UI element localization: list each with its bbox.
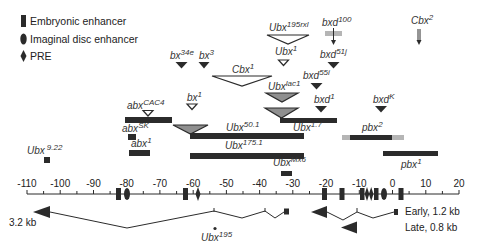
gray-triangle-icon [173,125,208,134]
svg-text:bxdK: bxdK [373,92,395,105]
svg-text:bxd51j: bxd51j [320,47,347,60]
svg-text:abxCAC4: abxCAC4 [127,98,165,111]
filled-triangle-icon [315,106,327,113]
allele-ubx195rxl: Ubx195rxl [267,20,309,44]
allele-label: Ubx [27,145,46,156]
svg-text:Cbx2: Cbx2 [411,13,434,26]
tick-label: -10 [352,178,367,189]
allele-abxCAC4: abxCAC4 [127,98,165,116]
allele-superscript: SK [138,121,149,130]
allele-bxd51j: bxd51j [320,47,347,69]
deletion-bar [129,150,150,156]
allele-label: pbx [361,122,379,133]
svg-text:Ubx1: Ubx1 [275,44,297,57]
tick-label: -80 [119,178,134,189]
allele-label: bxd [303,70,320,81]
svg-text:Ubx195: Ubx195 [201,230,233,243]
axis-ticks [27,190,459,194]
kb-axis: -110 -100 -90 -80 -70 -60 -50 -40 -30 -2… [17,178,465,201]
exon-box [394,209,398,215]
tick-label: -110 [17,178,37,189]
allele-label: Cbx [411,15,430,26]
embryonic-enhancer-icon [360,188,365,200]
svg-text:Ubx195rxl: Ubx195rxl [269,20,309,33]
allele-label: Ubx [268,81,287,92]
allele-bxd1: bxd1 [314,92,335,113]
allele-bx34e: bx34e [170,48,194,69]
open-triangle-icon [279,60,289,66]
svg-text:UbxMx6: UbxMx6 [273,155,306,168]
pre-icon [365,187,370,201]
transcript-3-2kb: 3.2 kb [9,206,289,228]
embryonic-enhancer-icon [322,188,327,200]
filled-triangle-icon [375,106,387,113]
allele-superscript: 195rxl [287,20,309,29]
svg-text:bxd55i: bxd55i [303,68,330,81]
allele-ubx195: Ubx195 [201,227,233,243]
tick-label: -70 [153,178,168,189]
svg-text:Cbx1: Cbx1 [232,62,254,75]
allele-label: abx [122,123,139,134]
svg-text:bxd1: bxd1 [314,92,335,105]
tick-label: -100 [50,178,70,189]
legend-label-pre: PRE [30,50,52,62]
allele-superscript: 34e [181,48,195,57]
allele-superscript: CAC4 [143,98,165,107]
imaginal-disc-enhancer-icon [381,188,387,200]
svg-text:bxd100: bxd100 [322,15,352,28]
allele-label: bxd [314,94,331,105]
allele-pbx2: pbx2 [342,120,404,140]
svg-text:Ubx50.1: Ubx50.1 [226,120,259,133]
allele-bxd55i: bxd55i [303,68,330,90]
allele-superscript: 51j [336,47,347,56]
embryonic-enhancer-icon [340,188,345,200]
allele-bxdK: bxdK [373,92,395,113]
open-triangle-icon [267,35,309,44]
embryonic-enhancer-icon [183,188,188,200]
allele-superscript: 1 [198,90,202,99]
imaginal-disc-enhancer-legend-icon [20,34,26,45]
svg-text:abx1: abx1 [131,136,152,149]
allele-label: Ubx [275,46,294,57]
gray-triangle-icon [266,93,298,102]
allele-label: Ubx [226,122,245,133]
allele-superscript: 50.1 [244,120,260,129]
arrowhead-left-icon [341,222,357,234]
transcript-label-long: 3.2 kb [9,217,37,228]
allele-label: bxd [373,94,390,105]
svg-text:abxSK: abxSK [122,121,149,134]
filled-triangle-icon [311,83,323,90]
open-triangle-icon [187,104,197,110]
tick-label: 0 [390,178,396,189]
tick-label: -30 [286,178,301,189]
transcript-label-early: Early, 1.2 kb [405,206,460,217]
allele-superscript: 1 [417,157,421,166]
allele-label: abx [131,138,148,149]
allele-label: Cbx [232,64,251,75]
svg-text:bx3: bx3 [199,48,215,61]
tick-label: -90 [86,178,101,189]
intron-line [50,211,284,228]
allele-abx1: abx1 [129,136,152,156]
svg-text:Ubx175.1: Ubx175.1 [225,138,263,151]
axis-tick-labels: -110 -100 -90 -80 -70 -60 -50 -40 -30 -2… [17,178,465,189]
allele-bx3: bx3 [199,48,215,69]
arrowhead-icon [417,40,422,45]
allele-bx1: bx1 [187,90,202,110]
svg-text:Ubxlac1: Ubxlac1 [268,79,300,92]
allele-label: Ubx [225,140,244,151]
allele-superscript: 1.7 [311,120,323,129]
allele-label: bxd [320,49,337,60]
arrowhead-left-icon [311,206,327,218]
tick-label: -40 [252,178,267,189]
deletion-box [44,157,50,163]
allele-superscript: 2 [377,120,383,129]
allele-superscript: 1 [330,92,334,101]
allele-label: abx [127,100,144,111]
allele-superscript: 100 [338,15,352,24]
embryonic-enhancer-legend-icon [21,15,26,27]
allele-ubx175_1: Ubx175.1 [190,138,304,159]
transcript-late: Late, 0.8 kb [341,222,458,234]
transcript-early: Early, 1.2 kb [311,206,460,220]
allele-label: pbx [400,159,418,170]
